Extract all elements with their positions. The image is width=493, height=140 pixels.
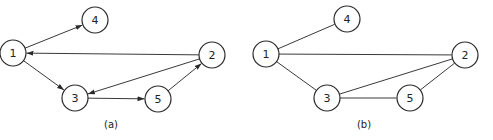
node-label: 5 bbox=[407, 92, 414, 105]
node-label: 2 bbox=[462, 49, 469, 62]
node-label: 3 bbox=[72, 92, 79, 105]
nodes-a: 12345 bbox=[0, 7, 225, 112]
edge-1-4 bbox=[278, 24, 335, 48]
caption-a: (a) bbox=[104, 119, 118, 130]
node-2: 2 bbox=[199, 42, 225, 68]
edge-2-3 bbox=[88, 59, 200, 94]
edge-1-3 bbox=[277, 62, 317, 90]
node-label: 3 bbox=[324, 92, 331, 105]
node-2: 2 bbox=[452, 42, 478, 68]
edge-1-4 bbox=[25, 25, 82, 48]
edge-1-3 bbox=[24, 61, 65, 90]
node-label: 1 bbox=[10, 47, 17, 60]
node-4: 4 bbox=[334, 6, 360, 32]
edge-2-3 bbox=[340, 59, 453, 94]
node-1: 1 bbox=[0, 40, 26, 66]
nodes-b: 12345 bbox=[253, 6, 478, 111]
node-5: 5 bbox=[145, 86, 171, 112]
node-label: 4 bbox=[92, 14, 99, 27]
node-4: 4 bbox=[82, 7, 108, 33]
edge-1-2 bbox=[279, 54, 452, 55]
edges-b bbox=[277, 24, 455, 98]
undirected-graph-b: 12345 (b) bbox=[253, 6, 478, 130]
node-3: 3 bbox=[314, 85, 340, 111]
node-3: 3 bbox=[62, 85, 88, 111]
node-5: 5 bbox=[397, 85, 423, 111]
edge-2-1 bbox=[26, 53, 199, 55]
graph-diagram-canvas: 12345 (a) 12345 (b) bbox=[0, 0, 493, 140]
node-label: 1 bbox=[263, 48, 270, 61]
node-label: 2 bbox=[209, 49, 216, 62]
caption-b: (b) bbox=[357, 119, 371, 130]
node-label: 4 bbox=[344, 13, 351, 26]
node-label: 5 bbox=[155, 93, 162, 106]
edge-3-5 bbox=[88, 98, 145, 99]
node-1: 1 bbox=[253, 41, 279, 67]
directed-graph-a: 12345 (a) bbox=[0, 7, 225, 130]
edges-a bbox=[24, 25, 202, 99]
